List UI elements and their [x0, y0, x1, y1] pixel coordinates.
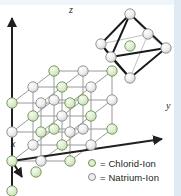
legend: = Chlorid-Ion = Natrium-Ion: [88, 156, 180, 184]
natrium-ion: [57, 111, 67, 121]
natrium-ion: [78, 124, 88, 134]
natrium-ion-marker-icon: [88, 173, 96, 181]
chlorid-ion: [28, 111, 38, 121]
octahedron-vertex-natrium-ion: [125, 9, 135, 19]
octahedron-vertex-natrium-ion: [96, 39, 106, 49]
natrium-ion: [28, 140, 38, 150]
axis-label-y: y: [166, 100, 170, 111]
chlorid-ion-marker-icon: [88, 159, 96, 167]
chlorid-ion: [36, 127, 46, 137]
legend-label-natrium: = Natrium-Ion: [100, 172, 159, 183]
axis-label-z: z: [69, 4, 73, 15]
chlorid-ion: [7, 156, 17, 166]
chlorid-ion: [57, 140, 67, 150]
legend-item-chlorid: = Chlorid-Ion: [88, 156, 180, 170]
chlorid-ion: [49, 66, 59, 76]
chlorid-ion: [107, 66, 117, 76]
chlorid-ion: [31, 167, 41, 177]
natrium-ion: [36, 156, 46, 166]
octahedron-vertex-natrium-ion: [125, 73, 135, 83]
octahedron-vertex-natrium-ion: [143, 29, 153, 39]
chlorid-ion: [78, 95, 88, 105]
octahedron-vertex-natrium-ion: [106, 52, 116, 62]
chlorid-ion: [65, 98, 75, 108]
natrium-ion: [7, 127, 17, 137]
natrium-ion: [36, 98, 46, 108]
natrium-ion: [86, 82, 96, 92]
natrium-ion: [86, 140, 96, 150]
chlorid-ion: [7, 186, 17, 196]
chlorid-ion: [57, 82, 67, 92]
natrium-ion: [107, 95, 117, 105]
chlorid-ion: [107, 124, 117, 134]
natrium-ion: [49, 95, 59, 105]
chlorid-ion: [49, 124, 59, 134]
chlorid-ion: [7, 98, 17, 108]
chlorid-ion: [86, 111, 96, 121]
chlorid-ion: [65, 156, 75, 166]
octahedron-edge: [101, 14, 130, 44]
natrium-ion: [65, 127, 75, 137]
axis-label-x: x: [11, 138, 15, 149]
natrium-ion: [78, 66, 88, 76]
octahedron-center-chlorid-ion: [125, 41, 135, 51]
legend-item-natrium: = Natrium-Ion: [88, 170, 180, 184]
natrium-ion: [28, 82, 38, 92]
nacl-crystal-lattice-figure: z y x = Chlorid-Ion = Natrium-Ion: [0, 0, 181, 196]
legend-label-chlorid: = Chlorid-Ion: [100, 158, 156, 169]
octahedron-vertex-natrium-ion: [161, 43, 171, 53]
